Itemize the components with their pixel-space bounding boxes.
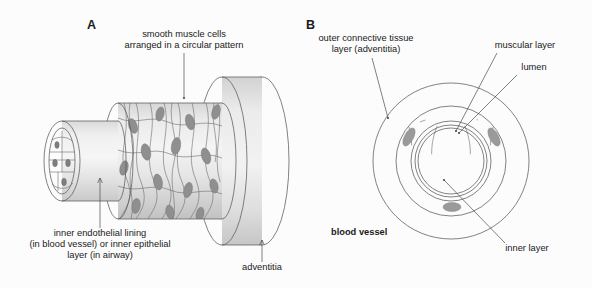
smooth-muscle-tube: [103, 103, 222, 221]
smooth-muscle-leader-dot: [183, 97, 185, 99]
panel-b-letter: B: [306, 18, 315, 32]
adventitia-outer-ring: [373, 83, 529, 239]
outer-connective-label-line2: layer (adventitia): [332, 44, 401, 54]
inner-layer-inner-edge: [415, 125, 487, 197]
vessel-airway-structure-figure: A smooth muscle cells arranged in a circ…: [0, 0, 592, 288]
outer-connective-leader-line: [372, 58, 388, 118]
lumen-cavity: [418, 128, 484, 194]
inner-layer-label: inner layer: [505, 243, 548, 253]
inner-endothelial-label-line1: inner endothelial lining: [54, 228, 147, 238]
muscular-layer-leader-dot: [455, 130, 457, 132]
inner-layer-ring: [411, 121, 491, 201]
smooth-muscle-label-line2: arranged in a circular pattern: [125, 40, 244, 50]
diagram-canvas: A smooth muscle cells arranged in a circ…: [0, 0, 592, 288]
panel-a-letter: A: [87, 18, 96, 32]
lumen-leader-dot: [458, 132, 460, 134]
muscular-nucleus-bottom: [443, 203, 461, 212]
outer-connective-leader-dot: [387, 117, 389, 119]
panel-b-group: [373, 83, 529, 239]
inner-lining-tube: [44, 121, 118, 201]
adventitia-sleeve-body: [222, 77, 262, 245]
inner-endothelial-label-line3: layer (in airway): [67, 250, 133, 260]
muscular-layer-leader-line: [456, 53, 497, 131]
inner-endothelial-label-line2: (in blood vessel) or inner epithelial: [29, 239, 170, 249]
muscular-nucleus-right: [485, 126, 502, 148]
outer-connective-label-line1: outer connective tissue: [318, 33, 413, 43]
panel-a-group: [44, 77, 289, 245]
muscular-layer-label: muscular layer: [495, 40, 555, 50]
adventitia-label: adventitia: [242, 262, 283, 272]
lumen-leader-line: [459, 75, 517, 133]
muscular-layer-ring: [396, 106, 506, 216]
inner-layer-leader-dot: [443, 179, 445, 181]
inner-tube-body: [62, 121, 118, 201]
lumen-label: lumen: [521, 62, 546, 72]
muscular-nucleus-left: [400, 126, 417, 148]
blood-vessel-label: blood vessel: [331, 227, 387, 237]
smooth-muscle-label-line1: smooth muscle cells: [142, 29, 226, 39]
